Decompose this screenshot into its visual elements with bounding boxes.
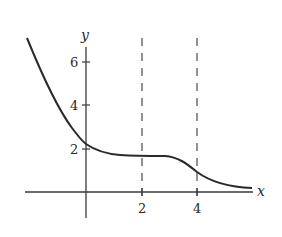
x-axis-label: x [257,183,265,199]
y-tick-label-2: 2 [70,142,78,157]
y-tick-label-4: 4 [70,98,78,113]
function-graph: y x 6 4 2 2 4 [0,0,282,237]
y-axis-label: y [80,27,90,43]
y-tick-label-6: 6 [70,55,78,70]
x-tick-label-2: 2 [138,201,146,216]
function-curve [27,38,252,188]
x-tick-label-4: 4 [193,201,201,216]
